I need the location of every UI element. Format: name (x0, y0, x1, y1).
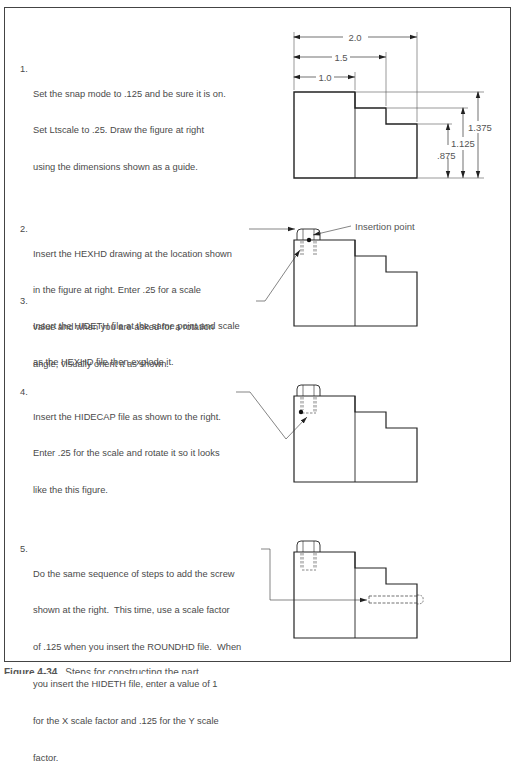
insertion-point-dot (307, 238, 311, 242)
caption-text: Steps for constructing the part (65, 667, 198, 674)
figure-3 (236, 385, 417, 482)
figure-1: 2.0 1.5 1.0 1.375 1.125 .875 (294, 32, 492, 179)
dim-1-375: 1.375 (468, 122, 492, 133)
step-line: for the X scale factor and .125 for the … (33, 715, 241, 727)
step-line: you insert the HIDETH file, enter a valu… (33, 678, 241, 690)
dim-1-0: 1.0 (318, 72, 331, 83)
figure-caption: Figure 4-34Steps for constructing the pa… (4, 666, 199, 674)
insertion-point-label: Insertion point (355, 221, 415, 232)
screw-hidden-lines (369, 596, 417, 603)
hidecap-point-dot (299, 410, 303, 414)
dim-1-5: 1.5 (334, 52, 347, 63)
dim-0-875: .875 (437, 150, 456, 161)
caption-label: Figure 4-34 (4, 667, 57, 674)
dim-1-125: 1.125 (451, 138, 475, 149)
hex-head-icon (297, 385, 320, 396)
figure-4 (261, 541, 423, 638)
dim-2-0: 2.0 (348, 32, 361, 43)
step-line: factor. (33, 752, 241, 764)
figure-2: Insertion point (249, 221, 417, 327)
hex-head-icon (297, 541, 320, 552)
round-head-icon (417, 595, 423, 604)
